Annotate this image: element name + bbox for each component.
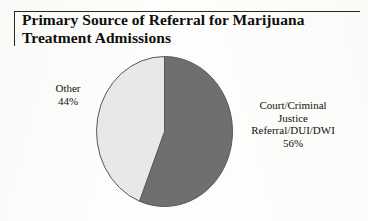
pie-label-court-criminal-justice: Court/Criminal Justice Referral/DUI/DWI … [238,99,348,149]
pie-label-court-line-3: Referral/DUI/DWI [238,124,348,137]
chart-page: Primary Source of Referral for Marijuana… [0,0,368,221]
pie-label-other-name: Other [30,82,106,95]
pie-label-court-line-2: Justice [238,112,348,125]
pie-label-other: Other 44% [30,82,106,107]
chart-title-line-1: Primary Source of Referral for Marijuana [22,11,352,29]
pie-chart [96,56,235,208]
chart-title: Primary Source of Referral for Marijuana… [22,11,352,46]
chart-title-line-2: Treatment Admissions [22,29,352,47]
pie-label-other-percent: 44% [30,95,106,108]
title-left-rule [14,11,15,46]
pie-label-court-line-1: Court/Criminal [238,99,348,112]
pie-chart-svg [96,56,235,208]
pie-label-court-percent: 56% [238,137,348,150]
